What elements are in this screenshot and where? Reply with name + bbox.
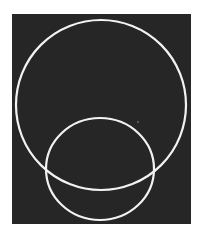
two-circles-diagram <box>0 0 199 237</box>
speck-dot <box>137 121 139 123</box>
